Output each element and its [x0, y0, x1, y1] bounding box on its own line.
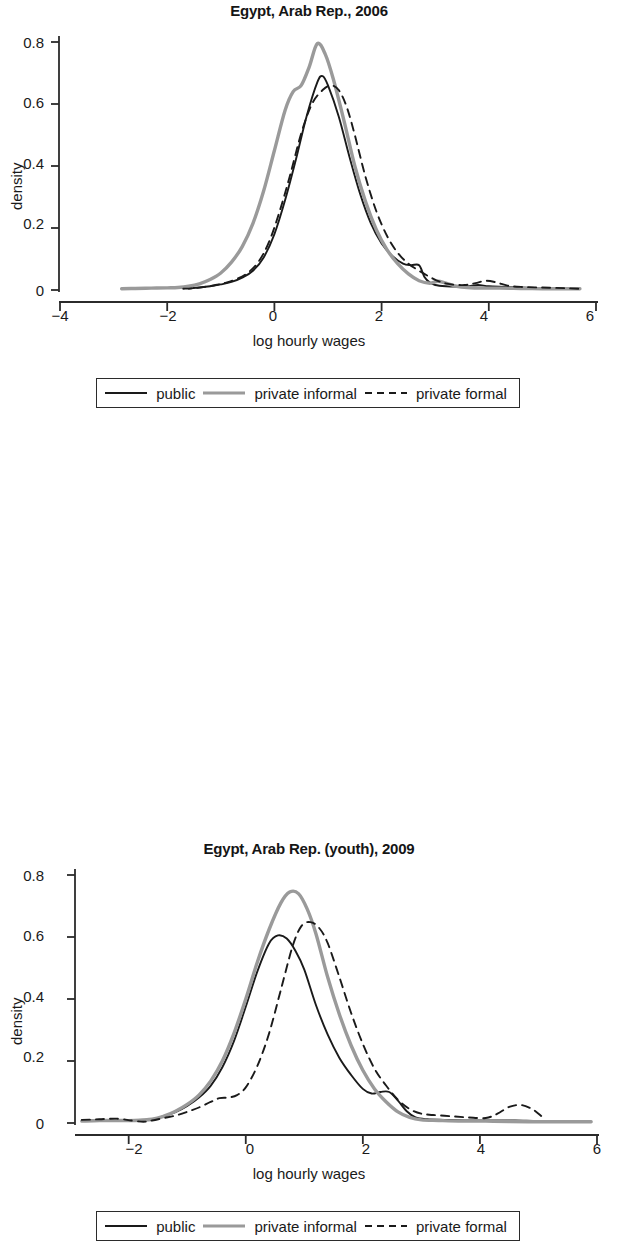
y-tick-label: 0.8: [0, 34, 44, 51]
legend-label: public: [149, 385, 201, 402]
series-public: [189, 76, 580, 289]
x-axis-label: log hourly wages: [0, 332, 618, 349]
density-plot-1: [0, 0, 618, 355]
legend-item-public[interactable]: public: [103, 385, 201, 402]
series-private-formal: [183, 85, 580, 288]
panel-2: Egypt, Arab Rep. (youth), 2009 density l…: [0, 415, 618, 830]
panel-3: Yemen, Rep., 2006 density log hourly wag…: [0, 830, 618, 1245]
series-private-informal: [122, 43, 580, 289]
y-tick-label: 0.2: [0, 215, 44, 232]
x-tick-label: −2: [146, 307, 190, 324]
legend-row: public private informal private formal: [103, 385, 513, 402]
x-tick-label: −4: [38, 307, 82, 324]
panel-1: Egypt, Arab Rep., 2006 density log hourl…: [0, 0, 618, 415]
gray-line-swatch-icon: [201, 387, 247, 399]
legend-item-private-formal[interactable]: private formal: [363, 385, 513, 402]
legend-label: private formal: [409, 385, 513, 402]
x-tick-label: 6: [568, 307, 612, 324]
dashed-line-swatch-icon: [363, 387, 409, 399]
y-tick-label: 0: [0, 282, 44, 299]
x-tick-label: 4: [462, 307, 506, 324]
figure-root: Egypt, Arab Rep., 2006 density log hourl…: [0, 0, 618, 1255]
y-tick-label: 0.6: [0, 94, 44, 111]
x-tick-label: 2: [357, 307, 401, 324]
legend: public private informal private formal: [96, 378, 520, 408]
y-tick-label: 0.4: [0, 155, 44, 172]
legend-label: private informal: [247, 385, 363, 402]
legend-item-private-informal[interactable]: private informal: [201, 385, 363, 402]
x-tick-label: 0: [251, 307, 295, 324]
solid-line-swatch-icon: [103, 387, 149, 399]
